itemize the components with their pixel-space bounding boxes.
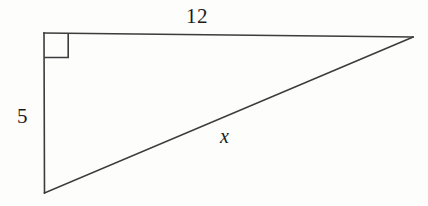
side-label-hypotenuse: x bbox=[220, 126, 229, 146]
triangle-side-hypotenuse bbox=[45, 37, 414, 193]
side-label-left: 5 bbox=[17, 106, 28, 127]
right-angle-marker-icon bbox=[44, 33, 68, 57]
triangle-side-top-leg bbox=[44, 33, 413, 37]
side-label-top: 12 bbox=[186, 6, 208, 27]
geometry-figure: 12 5 x bbox=[0, 0, 428, 206]
triangle-svg bbox=[0, 0, 428, 206]
